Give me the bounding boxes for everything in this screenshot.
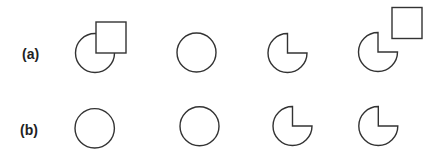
row-a-shape-2-circle — [177, 33, 216, 72]
row-a-shape-1-circle-occluded-by-square — [76, 22, 127, 73]
pie-notch-shape — [359, 107, 398, 146]
row-b-shape-4-pie-notch — [359, 107, 398, 146]
figure: (a) (b) — [0, 0, 440, 158]
pie-notch-shape — [273, 107, 312, 146]
square-shape — [392, 8, 422, 39]
pie-notch-shape — [268, 34, 307, 73]
circle-shape — [180, 107, 219, 146]
circle-shape — [75, 109, 114, 148]
row-b-shape-2-circle — [180, 107, 219, 146]
row-b-shape-3-pie-notch — [273, 107, 312, 146]
circle-shape — [177, 33, 216, 72]
row-b-shape-1-circle — [75, 109, 114, 148]
shapes-canvas — [0, 0, 440, 158]
square-shape — [96, 22, 126, 53]
row-a-shape-3-pie-notch — [268, 34, 307, 73]
row-a-shape-4-pie-notch-with-square — [359, 8, 423, 72]
